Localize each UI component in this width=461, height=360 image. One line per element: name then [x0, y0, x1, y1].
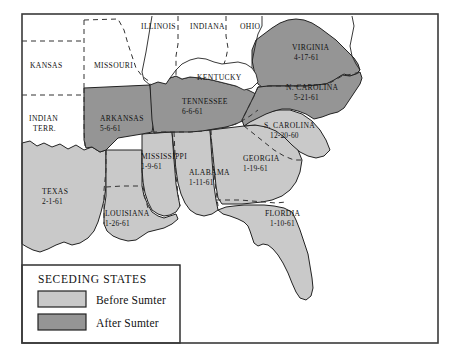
label-kentucky: KENTUCKY [197, 73, 242, 82]
date-virginia: 4-17-61 [294, 53, 319, 62]
label-indian-terr-line1: INDIAN [29, 114, 58, 123]
label-kansas: KANSAS [30, 61, 62, 70]
legend: SECEDING STATES Before Sumter After Sumt… [22, 265, 180, 343]
date-south-carolina: 12-20-60 [270, 131, 299, 140]
label-virginia: VIRGINIA [292, 43, 330, 52]
label-texas: TEXAS [42, 187, 68, 196]
label-arkansas: ARKANSAS [100, 114, 144, 123]
label-mississippi: MISSISSIPPI [141, 152, 187, 161]
label-illinois: ILLINOIS [141, 22, 176, 31]
legend-label-after-sumter: After Sumter [96, 317, 159, 329]
label-florida: FLORDIA [265, 209, 301, 218]
date-tennessee: 6-6-61 [182, 107, 203, 116]
legend-swatch-before-sumter [38, 291, 86, 307]
label-louisiana: LOUISIANA [105, 209, 150, 218]
label-missouri: MISSOURI [94, 61, 133, 70]
legend-label-before-sumter: Before Sumter [96, 294, 166, 306]
legend-title: SECEDING STATES [38, 273, 147, 285]
date-alabama: 1-11-61 [189, 178, 214, 187]
label-north-carolina: N. CAROLINA [286, 83, 339, 92]
label-ohio: OHIO [240, 22, 261, 31]
label-south-carolina: S. CAROLINA [264, 121, 315, 130]
label-georgia: GEORGIA [243, 154, 280, 163]
label-tennessee: TENNESSEE [182, 97, 228, 106]
date-mississippi: 1-9-61 [141, 162, 162, 171]
date-arkansas: 5-6-61 [100, 124, 121, 133]
label-indian-terr-line2: TERR. [33, 124, 56, 133]
label-indiana: INDIANA [190, 22, 225, 31]
label-alabama: ALABAMA [189, 168, 230, 177]
map-container: ARKANSAS 5-6-61 TENNESSEE 6-6-61 VIRGINI… [0, 0, 461, 360]
date-louisiana: 1-26-61 [105, 219, 130, 228]
date-texas: 2-1-61 [42, 197, 63, 206]
seceding-states-map: ARKANSAS 5-6-61 TENNESSEE 6-6-61 VIRGINI… [0, 0, 461, 360]
date-florida: 1-10-61 [270, 219, 295, 228]
date-north-carolina: 5-21-61 [294, 93, 319, 102]
legend-swatch-after-sumter [38, 314, 86, 330]
date-georgia: 1-19-61 [243, 164, 268, 173]
